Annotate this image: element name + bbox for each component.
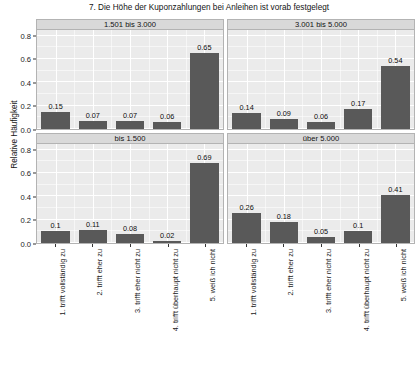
bar-slot: 0.14 bbox=[228, 30, 265, 129]
bar-value-label: 0.05 bbox=[314, 227, 328, 236]
bar-value-label: 0.1 bbox=[51, 221, 61, 230]
y-axis-tick-label: 0.4 bbox=[20, 78, 31, 87]
y-axis-tick-label: 0.0 bbox=[20, 240, 31, 249]
bar-value-label: 0.14 bbox=[239, 103, 253, 112]
y-axis-tick-label: 0.8 bbox=[20, 31, 31, 40]
bar-value-label: 0.07 bbox=[123, 111, 137, 120]
bar-slot: 0.06 bbox=[302, 30, 339, 129]
x-axis-tick-label-text: 2. trifft eher zu bbox=[286, 249, 295, 296]
bar-series: 0.140.090.060.170.54 bbox=[228, 30, 414, 129]
x-axis-tick-mark bbox=[130, 244, 131, 247]
x-axis-tick-mark bbox=[396, 244, 397, 247]
bar bbox=[232, 113, 260, 129]
plot-area: 0.260.180.050.10.41 bbox=[227, 144, 415, 244]
bar-series: 0.10.110.080.020.69 bbox=[37, 144, 223, 243]
plot-area: 0.150.070.070.060.65 bbox=[36, 30, 224, 130]
bar bbox=[79, 121, 107, 129]
bar-slot: 0.05 bbox=[302, 144, 339, 243]
bar-slot: 0.69 bbox=[186, 144, 223, 243]
y-axis-bottom-row: 0.00.20.40.60.8 bbox=[0, 144, 36, 244]
bar-slot: 0.07 bbox=[111, 30, 148, 129]
facet-strip-label: bis 1.500 bbox=[36, 133, 224, 144]
bar-slot: 0.17 bbox=[340, 30, 377, 129]
bar bbox=[79, 230, 107, 243]
x-axis-tick-mark bbox=[246, 244, 247, 247]
bar bbox=[190, 53, 218, 129]
bar-value-label: 0.06 bbox=[314, 112, 328, 121]
bar bbox=[344, 109, 372, 129]
bar-slot: 0.15 bbox=[37, 30, 74, 129]
chart-title: 7. Die Höhe der Kuponzahlungen bei Anlei… bbox=[0, 3, 418, 12]
x-axis-tick-label-text: 3. trifft eher nicht zu bbox=[133, 249, 142, 313]
bar-slot: 0.54 bbox=[377, 30, 414, 129]
bar-series: 0.260.180.050.10.41 bbox=[228, 144, 414, 243]
x-axis-tick-label-text: 4. trifft überhaupt nicht zu bbox=[171, 249, 180, 331]
facet-panel: über 5.000 0.260.180.050.10.41 bbox=[227, 133, 415, 244]
x-axis-tick-label-text: 2. trifft eher zu bbox=[95, 249, 104, 296]
bar-value-label: 0.11 bbox=[86, 220, 100, 229]
y-axis-top-row: 0.00.20.40.60.8 bbox=[0, 30, 36, 130]
bar bbox=[190, 163, 218, 243]
bar-slot: 0.11 bbox=[74, 144, 111, 243]
bar-value-label: 0.18 bbox=[277, 212, 291, 221]
x-axis-tick-label-text: 5. weiß ich nicht bbox=[399, 249, 408, 301]
bar bbox=[270, 119, 298, 129]
x-axis-tick-mark bbox=[168, 244, 169, 247]
x-axis-tick-mark bbox=[55, 244, 56, 247]
facet-panel: bis 1.500 0.10.110.080.020.69 bbox=[36, 133, 224, 244]
x-axis-tick-label-text: 5. weiß ich nicht bbox=[208, 249, 217, 301]
bar-slot: 0.1 bbox=[340, 144, 377, 243]
y-axis-tick-label: 0.6 bbox=[20, 55, 31, 64]
y-axis-tick-label: 0.0 bbox=[20, 126, 31, 135]
bar-slot: 0.09 bbox=[265, 30, 302, 129]
bar bbox=[153, 122, 181, 129]
bar bbox=[270, 222, 298, 243]
facet-panel-grid: 1.501 bis 3.000 0.150.070.070.060.65 3.0… bbox=[36, 19, 415, 244]
x-axis-tick-mark bbox=[359, 244, 360, 247]
y-axis-tick-label: 0.6 bbox=[20, 169, 31, 178]
bar bbox=[153, 241, 181, 243]
x-axis-tick-label-text: 4. trifft überhaupt nicht zu bbox=[362, 249, 371, 331]
bar bbox=[41, 112, 69, 129]
bar bbox=[307, 122, 335, 129]
bar bbox=[307, 237, 335, 243]
bar-slot: 0.06 bbox=[149, 30, 186, 129]
bar-slot: 0.65 bbox=[186, 30, 223, 129]
bar bbox=[116, 234, 144, 243]
x-axis-tick-mark bbox=[92, 244, 93, 247]
bar-slot: 0.07 bbox=[74, 30, 111, 129]
bar-slot: 0.08 bbox=[111, 144, 148, 243]
bar-slot: 0.26 bbox=[228, 144, 265, 243]
chart-figure: 7. Die Höhe der Kuponzahlungen bei Anlei… bbox=[0, 0, 418, 370]
bar-slot: 0.41 bbox=[377, 144, 414, 243]
bar bbox=[116, 121, 144, 129]
bar bbox=[344, 231, 372, 243]
x-axis-tick-mark bbox=[321, 244, 322, 247]
bar-slot: 0.02 bbox=[149, 144, 186, 243]
bar bbox=[232, 213, 260, 243]
bar bbox=[381, 66, 409, 129]
x-axis-tick-label-text: 1. trifft vollständig zu bbox=[58, 249, 67, 315]
y-axis-tick-label: 0.8 bbox=[20, 145, 31, 154]
bar-value-label: 0.1 bbox=[353, 221, 363, 230]
bar-value-label: 0.41 bbox=[388, 185, 402, 194]
bar-value-label: 0.26 bbox=[239, 203, 253, 212]
bar-series: 0.150.070.070.060.65 bbox=[37, 30, 223, 129]
x-axis-tick-label-text: 1. trifft vollständig zu bbox=[249, 249, 258, 315]
bar-slot: 0.18 bbox=[265, 144, 302, 243]
bar bbox=[381, 195, 409, 243]
facet-strip-label: über 5.000 bbox=[227, 133, 415, 144]
y-axis-tick-label: 0.2 bbox=[20, 216, 31, 225]
facet-panel: 1.501 bis 3.000 0.150.070.070.060.65 bbox=[36, 19, 224, 130]
y-axis-tick-label: 0.4 bbox=[20, 192, 31, 201]
facet-panel: 3.001 bis 5.000 0.140.090.060.170.54 bbox=[227, 19, 415, 130]
facet-strip-label: 1.501 bis 3.000 bbox=[36, 19, 224, 30]
x-axis-tick-mark bbox=[205, 244, 206, 247]
bar-value-label: 0.09 bbox=[277, 109, 291, 118]
bar-value-label: 0.65 bbox=[197, 43, 211, 52]
bar-value-label: 0.69 bbox=[197, 153, 211, 162]
x-axis-tick-label-text: 3. trifft eher nicht zu bbox=[324, 249, 333, 313]
y-axis-tick-label: 0.2 bbox=[20, 102, 31, 111]
bar-value-label: 0.06 bbox=[160, 112, 174, 121]
bar bbox=[41, 231, 69, 243]
